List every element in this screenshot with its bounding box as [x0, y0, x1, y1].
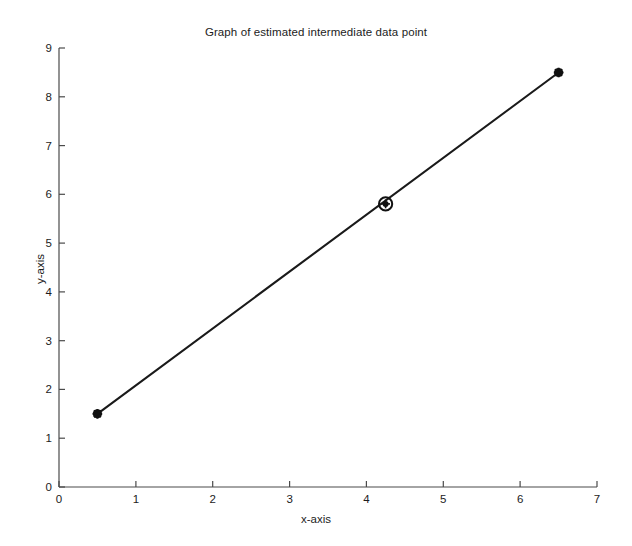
x-tick-label: 3 [286, 493, 292, 505]
y-tick-label: 4 [46, 286, 53, 298]
x-tick-label: 5 [440, 493, 446, 505]
x-tick-marks [59, 481, 597, 487]
y-tick-label: 6 [46, 188, 52, 200]
y-tick-label: 9 [46, 42, 52, 54]
x-axis-label: x-axis [0, 513, 632, 525]
y-tick-label: 0 [46, 481, 52, 493]
x-tick-label: 6 [517, 493, 523, 505]
data-point-marker-start[interactable] [93, 409, 103, 419]
x-tick-label: 7 [594, 493, 600, 505]
y-tick-labels: 0 1 2 3 4 5 6 7 8 9 [46, 42, 53, 493]
y-tick-marks [59, 48, 65, 487]
y-tick-label: 8 [46, 91, 52, 103]
x-tick-label: 2 [209, 493, 215, 505]
data-line-series-1 [97, 73, 558, 414]
x-tick-label: 1 [133, 493, 139, 505]
x-tick-labels: 0 1 2 3 4 5 6 7 [56, 493, 600, 505]
x-tick-label: 0 [56, 493, 62, 505]
y-axis-label: y-axis [34, 239, 46, 299]
y-tick-label: 7 [46, 140, 52, 152]
y-tick-label: 5 [46, 237, 52, 249]
y-tick-label: 2 [46, 383, 52, 395]
plot-area: 0 1 2 3 4 5 6 7 8 9 0 1 2 3 [0, 0, 632, 546]
y-tick-label: 1 [46, 432, 52, 444]
x-tick-label: 4 [363, 493, 370, 505]
figure-canvas: Graph of estimated intermediate data poi… [0, 0, 632, 546]
data-point-marker-end[interactable] [554, 68, 564, 78]
y-tick-label: 3 [46, 335, 52, 347]
